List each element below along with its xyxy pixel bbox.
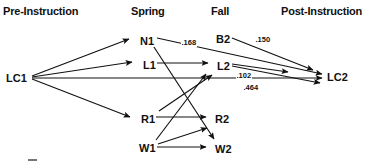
node-l1: L1 [142, 59, 157, 71]
node-r1: R1 [140, 113, 156, 125]
node-b2: B2 [215, 33, 231, 45]
node-lc1: LC1 [5, 72, 28, 84]
path-edges-layer [0, 0, 367, 166]
scan-artifact-mark [28, 159, 37, 161]
edge-lc1-l1 [32, 62, 132, 77]
coefficient-n1-lc2: .168 [181, 38, 197, 47]
column-header-post-instruction: Post-Instruction [281, 5, 362, 17]
node-w1: W1 [138, 142, 157, 154]
edge-n1-w2 [152, 44, 214, 139]
edge-lc1-n1 [32, 39, 129, 76]
column-header-spring: Spring [131, 5, 165, 17]
node-w2: W2 [214, 143, 233, 155]
coefficient-b2-lc2: .150 [255, 35, 271, 44]
edge-lc1-r1 [32, 79, 130, 117]
edge-w1-l2 [156, 74, 206, 140]
node-r2: R2 [214, 113, 230, 125]
path-diagram: Pre-Instruction Spring Fall Post-Instruc… [0, 0, 367, 166]
column-header-pre-instruction: Pre-Instruction [3, 5, 78, 17]
node-l2: L2 [216, 60, 231, 72]
node-n1: N1 [139, 35, 155, 47]
edge-r1-l2 [159, 75, 212, 111]
column-header-fall: Fall [211, 5, 229, 17]
coefficient-l2-lc2: .102 [236, 71, 252, 80]
edge-w1-w2-upper [158, 128, 207, 144]
node-lc2: LC2 [326, 71, 349, 83]
coefficient-lc1-lc2: .464 [243, 83, 259, 92]
